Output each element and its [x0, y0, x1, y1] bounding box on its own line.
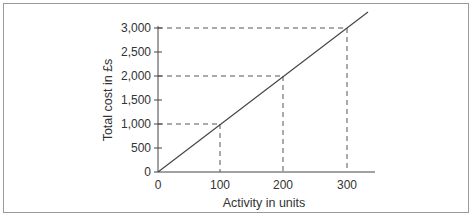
y-tick-labels: 0 500 1,000 1,500 2,000 2,500 3,000: [121, 21, 151, 179]
svg-text:500: 500: [131, 141, 151, 155]
svg-text:1,000: 1,000: [121, 117, 151, 131]
svg-text:2,000: 2,000: [121, 69, 151, 83]
svg-text:100: 100: [210, 178, 230, 192]
total-cost-line: [158, 12, 368, 172]
y-axis-label: Total cost in £s: [101, 59, 115, 142]
svg-text:2,500: 2,500: [121, 45, 151, 59]
line-chart: 0 500 1,000 1,500 2,000 2,500 3,000 0 10…: [0, 0, 475, 218]
x-tick-labels: 0 100 200 300: [155, 178, 358, 192]
svg-text:3,000: 3,000: [121, 21, 151, 35]
svg-text:200: 200: [273, 178, 293, 192]
svg-text:1,500: 1,500: [121, 93, 151, 107]
svg-text:300: 300: [337, 178, 357, 192]
svg-text:0: 0: [155, 178, 162, 192]
x-axis-label: Activity in units: [223, 196, 306, 210]
svg-text:0: 0: [144, 165, 151, 179]
